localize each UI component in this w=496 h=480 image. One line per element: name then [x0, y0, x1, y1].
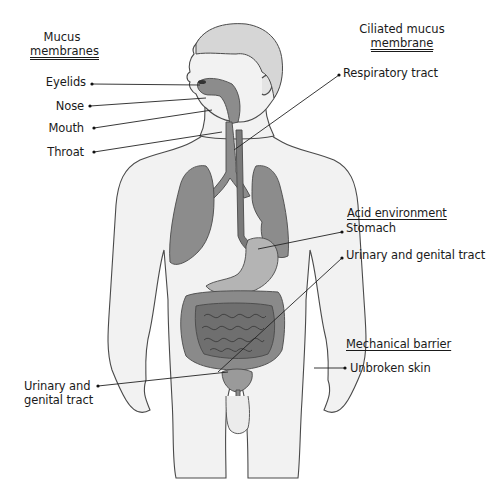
eye — [198, 80, 206, 84]
group-heading-mechanical-barrier: Mechanical barrier — [346, 337, 451, 351]
heading-line-2: membrane — [371, 36, 434, 52]
label-urinary-genital-tract-left: Urinary and genital tract — [24, 379, 93, 407]
group-heading-mucus-membranes: Mucus membranes — [30, 30, 94, 60]
heading-line-1: Mucus — [30, 30, 94, 44]
label-stomach: Stomach — [346, 221, 396, 235]
label-nose: Nose — [30, 99, 84, 113]
label-throat: Throat — [30, 145, 84, 159]
diagram-canvas: Mucus membranes Eyelids Nose Mouth Throa… — [0, 0, 496, 480]
label-eyelids: Eyelids — [30, 75, 86, 89]
label-mouth: Mouth — [30, 121, 84, 135]
label-unbroken-skin: Unbroken skin — [350, 361, 431, 375]
label-urinary-genital-tract-right: Urinary and genital tract — [346, 248, 485, 262]
genital-outline — [226, 396, 250, 434]
label-line-1: Urinary and — [24, 379, 93, 393]
group-heading-ciliated-mucus-membrane: Ciliated mucus membrane — [354, 22, 450, 52]
group-heading-acid-environment: Acid environment — [347, 206, 447, 220]
heading-line-2: membranes — [30, 44, 99, 60]
label-respiratory-tract: Respiratory tract — [343, 66, 438, 80]
label-line-2: genital tract — [24, 393, 93, 407]
heading-line-1: Ciliated mucus — [354, 22, 450, 36]
